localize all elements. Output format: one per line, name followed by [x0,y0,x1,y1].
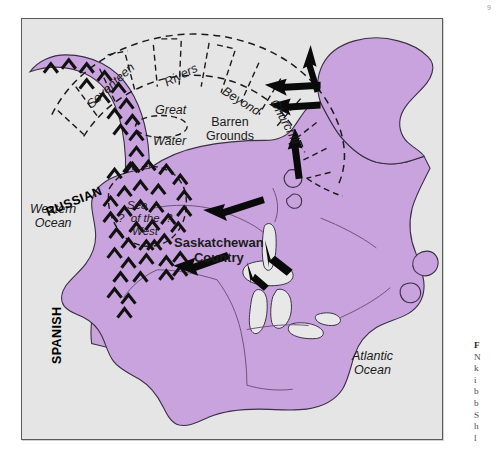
label-atlantic-ocean: AtlanticOcean [352,349,393,377]
label-great-water-bottom: Water [153,134,186,148]
chev-nw-11 [80,80,94,89]
caption-line: F [474,340,498,352]
caption-line: h [474,421,498,433]
page-corner-mark: 9 [487,4,491,11]
spoke-7 [201,43,209,87]
label-barren-grounds: BarrenGrounds [206,115,254,143]
map-legend: Known land [379,437,442,440]
label-great-water-top: Great [155,103,186,117]
cap-a [108,51,128,55]
caption-line: b [474,398,498,410]
caption-line: i [474,375,498,387]
maritime-islands [413,251,438,276]
cap-c [217,45,235,49]
caption-line: b [474,386,498,398]
gulf-island [400,283,421,303]
spoke-1 [58,111,84,135]
label-sea-of-the-west-line2: ? of the ? [118,212,172,225]
label-sea-of-the-west-line1: Sea [127,199,147,212]
label-spanish-approach: SPANISH [50,307,64,364]
label-sea-of-the-west-line3: West [132,225,158,238]
historical-map: .land{fill:#c9a3de;stroke:#3a2f45;stroke… [21,18,443,440]
page-canvas: 9 .land{fill:#c9a3de;stroke:#3a2f45;stro… [0,0,498,471]
label-saskatchewan-country: SaskatchewanCountry [174,236,264,265]
caption-line: S [474,410,498,422]
caption-line: N [474,352,498,364]
spoke-5 [153,45,157,87]
figure-caption: F N k i b b S h l [474,340,498,444]
caption-line: l [474,433,498,445]
caption-line: k [474,363,498,375]
legend-label-known-land: Known land [399,437,443,440]
